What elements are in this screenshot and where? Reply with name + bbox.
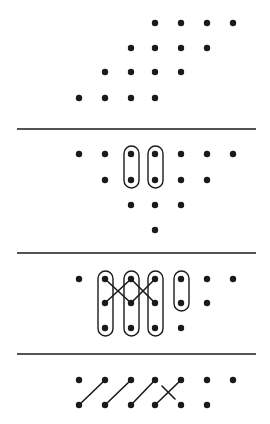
panel-3-dot [128,300,134,306]
panel-2-dot [102,151,108,157]
dot-diagram [0,0,270,424]
panel-4-dot [204,377,210,383]
panel-1-dot [128,69,134,75]
panel-3-dot [204,276,210,282]
panel-4-dot [76,377,82,383]
panel-2-dot [152,177,158,183]
panel-4-connector-line [79,380,105,405]
panel-2-dot [178,202,184,208]
panel-2-dot [128,177,134,183]
panel-4-connector-line [131,380,155,405]
panel-1-dot [76,95,82,101]
panel-1-dot [230,20,236,26]
panel-3-dot [152,300,158,306]
panel-2-dot [230,151,236,157]
panel-3-dot [128,276,134,282]
panel-2-dot [152,151,158,157]
panel-3-dot [178,276,184,282]
panel-4-dot [178,377,184,383]
panel-3-dot [152,325,158,331]
panel-1-dot [204,45,210,51]
panel-1-dot [178,45,184,51]
panel-4-dot [128,377,134,383]
panel-1-dot [178,20,184,26]
panel-2-dot [178,151,184,157]
panel-3-dot [102,300,108,306]
panel-2-dot [204,177,210,183]
panel-3-dot [102,276,108,282]
panel-2-dot [204,151,210,157]
panel-4-dot [178,402,184,408]
panel-4-dot [102,402,108,408]
panel-2-dot [152,227,158,233]
panel-3-dot [230,276,236,282]
panel-1-dot [152,69,158,75]
panel-3-dot [204,300,210,306]
panel-4-dot [230,377,236,383]
panel-1-dot [204,20,210,26]
panel-1-dot [152,20,158,26]
panel-1-dot [102,95,108,101]
panel-1-dot [128,45,134,51]
panel-4-dot [152,402,158,408]
panel-2-dot [152,202,158,208]
panel-3-dot [178,325,184,331]
panel-4-connector-line [105,380,131,405]
panel-3-dot [76,276,82,282]
panel-3-dot [178,300,184,306]
panel-4-dot [128,402,134,408]
panel-2-dot [102,177,108,183]
panel-1-dot [152,95,158,101]
panel-4-dot [102,377,108,383]
panel-1-dot [178,69,184,75]
panel-2-dot [128,202,134,208]
panel-4-dot [152,377,158,383]
panel-3-dot [152,276,158,282]
panel-1-dot [128,95,134,101]
panel-4-dot [76,402,82,408]
panel-2-dot [178,177,184,183]
panel-2-dot [128,151,134,157]
panel-1-dot [152,45,158,51]
panel-2-dot [76,151,82,157]
panel-3-dot [128,325,134,331]
panel-4-dot [204,402,210,408]
panel-3-dot [102,325,108,331]
panel-1-dot [102,69,108,75]
